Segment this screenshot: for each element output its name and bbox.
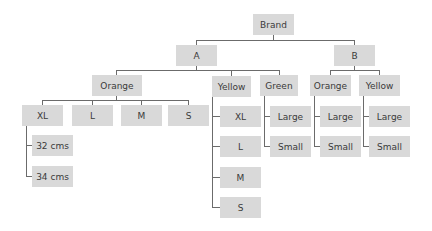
connector-line — [363, 96, 364, 147]
node-ay-l: L — [220, 136, 261, 157]
connector-line — [212, 116, 220, 117]
connector-line — [212, 97, 213, 208]
connector-line — [26, 126, 27, 177]
node-a-orange: Orange — [92, 75, 142, 96]
connector-line — [212, 207, 220, 208]
node-a: A — [176, 45, 217, 66]
node-a-yellow: Yellow — [212, 76, 251, 97]
node-ay-xl: XL — [220, 106, 261, 127]
connector-line — [196, 40, 355, 41]
node-ay-m: M — [220, 167, 261, 188]
node-ay-s: S — [220, 197, 261, 218]
connector-line — [42, 100, 189, 101]
connector-line — [330, 70, 380, 71]
node-a-green: Green — [260, 75, 298, 96]
node-b: B — [334, 45, 375, 66]
node-ao-xl: XL — [22, 105, 63, 126]
node-b-yellow: Yellow — [359, 75, 400, 96]
node-b-orange: Orange — [310, 75, 351, 96]
node-ao-s: S — [168, 105, 209, 126]
node-ao-l: L — [72, 105, 113, 126]
node-brand: Brand — [253, 14, 294, 35]
node-bo-large: Large — [320, 106, 361, 127]
connector-line — [314, 96, 315, 147]
connector-line — [264, 96, 265, 147]
node-ag-large: Large — [270, 106, 311, 127]
brand-hierarchy-diagram: BrandABOrangeYellowGreenOrangeYellowXLLM… — [0, 0, 432, 231]
connector-line — [212, 177, 220, 178]
node-bo-small: Small — [320, 136, 361, 157]
node-xl-32: 32 cms — [32, 135, 73, 156]
node-ao-m: M — [121, 105, 162, 126]
node-by-large: Large — [369, 106, 410, 127]
node-xl-34: 34 cms — [32, 166, 73, 187]
node-ag-small: Small — [270, 136, 311, 157]
connector-line — [116, 70, 280, 71]
connector-line — [212, 146, 220, 147]
node-by-small: Small — [369, 136, 410, 157]
